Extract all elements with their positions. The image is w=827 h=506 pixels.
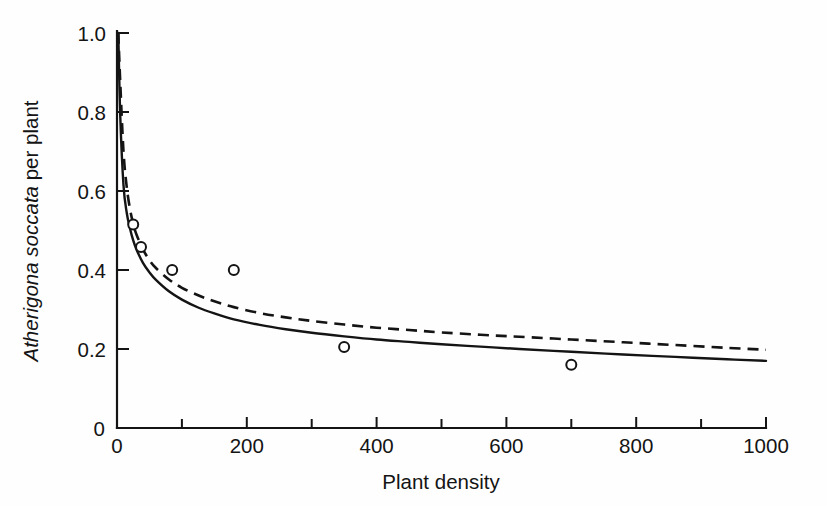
data-point-marker bbox=[566, 360, 576, 370]
data-point-marker bbox=[167, 265, 177, 275]
data-point-marker bbox=[229, 265, 239, 275]
data-point-marker bbox=[128, 220, 138, 230]
y-axis-title: Atherigona soccata per plant bbox=[19, 100, 42, 363]
y-tick-label: 0.2 bbox=[78, 338, 107, 361]
data-point-marker bbox=[339, 342, 349, 352]
y-axis-title-suffix: per plant bbox=[19, 100, 42, 186]
y-tick-label: 0.6 bbox=[78, 180, 107, 203]
x-tick-label: 600 bbox=[489, 434, 523, 457]
x-tick-label: 400 bbox=[359, 434, 393, 457]
scatter-plot: 020040060080010000 0.20.40.60.81.0 Plant… bbox=[0, 0, 827, 506]
fitted-curve-dashed bbox=[118, 33, 766, 350]
y-axis-tick-labels: 0.20.40.60.81.0 bbox=[78, 22, 107, 361]
y-axis-title-species: Atherigona soccata bbox=[19, 186, 42, 364]
fitted-curve-solid bbox=[118, 33, 766, 361]
y-tick-label: 1.0 bbox=[78, 22, 107, 45]
x-tick-label: 0 bbox=[111, 434, 122, 457]
axes bbox=[117, 31, 766, 428]
y-tick-label: 0.8 bbox=[78, 101, 107, 124]
x-origin-label: 0 bbox=[94, 417, 105, 440]
x-tick-label: 800 bbox=[619, 434, 653, 457]
x-axis-title: Plant density bbox=[382, 470, 500, 493]
x-axis-ticks bbox=[182, 417, 766, 428]
figure-container: 020040060080010000 0.20.40.60.81.0 Plant… bbox=[0, 0, 827, 506]
data-point-marker bbox=[136, 242, 146, 252]
y-tick-label: 0.4 bbox=[78, 259, 107, 282]
x-tick-label: 1000 bbox=[743, 434, 789, 457]
x-tick-label: 200 bbox=[230, 434, 264, 457]
